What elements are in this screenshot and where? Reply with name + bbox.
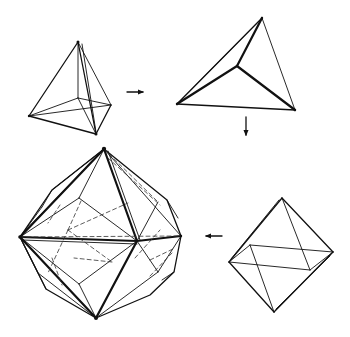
tetrahedron-figure	[28, 41, 111, 136]
octahedron-figure	[229, 198, 333, 312]
tetrahedron-top-view-figure	[176, 17, 296, 111]
polyhedra-diagram	[0, 0, 350, 337]
compound-polyhedron-figure	[18, 147, 182, 320]
